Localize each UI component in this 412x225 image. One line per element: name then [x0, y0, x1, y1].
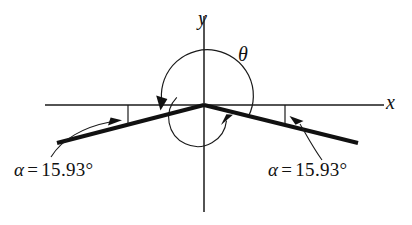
- alpha-left-arc-icon: [51, 122, 110, 157]
- theta-inner-arc-arrowhead-icon: [221, 114, 233, 125]
- alpha-left-equals: =: [24, 159, 41, 180]
- alpha-right-equals: =: [278, 159, 295, 180]
- alpha-right-arc-arrowhead-icon: [290, 116, 304, 125]
- alpha-left-symbol: α: [14, 159, 24, 180]
- left-ray-line: [57, 105, 204, 143]
- alpha-left-arc-arrowhead-icon: [108, 118, 122, 126]
- alpha-right-value: 15.93°: [295, 159, 347, 180]
- alpha-right-symbol: α: [268, 159, 278, 180]
- theta-label: θ: [238, 44, 248, 64]
- right-ray-line: [204, 105, 358, 143]
- alpha-left-value: 15.93°: [41, 159, 93, 180]
- angle-diagram-figure: y x θ α=15.93° α=15.93°: [0, 0, 412, 225]
- theta-outer-arc-arrowhead-icon: [156, 96, 167, 111]
- alpha-left-equation: α=15.93°: [14, 160, 93, 179]
- diagram-canvas: [0, 0, 412, 225]
- alpha-right-equation: α=15.93°: [268, 160, 347, 179]
- y-axis-label: y: [198, 8, 207, 28]
- x-axis-label: x: [386, 92, 395, 112]
